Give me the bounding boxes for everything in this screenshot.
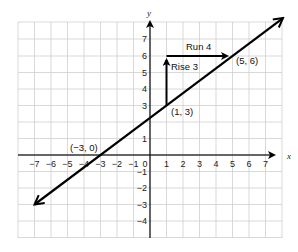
point-label-neg3-0: (−3, 0) — [70, 142, 98, 153]
svg-text:−2: −2 — [137, 183, 147, 193]
x-tick-labels: −7 −6 −5 −4 −3 −2 −1 0 1 2 3 4 5 6 7 — [29, 159, 268, 169]
svg-text:−7: −7 — [29, 159, 39, 169]
y-tick-labels: 7 6 5 4 3 1 −1 −2 −3 −4 — [137, 34, 147, 226]
svg-text:3: 3 — [142, 101, 147, 111]
svg-text:−1: −1 — [137, 167, 147, 177]
svg-text:6: 6 — [246, 159, 251, 169]
run-label: Run 4 — [186, 41, 211, 52]
point-label-1-3: (1, 3) — [171, 106, 193, 117]
point-label-5-6: (5, 6) — [236, 55, 258, 66]
svg-text:2: 2 — [180, 159, 185, 169]
svg-text:4: 4 — [213, 159, 218, 169]
svg-text:−4: −4 — [137, 216, 147, 226]
run-arrow: Run 4 — [167, 41, 228, 56]
svg-text:4: 4 — [142, 84, 147, 94]
svg-text:6: 6 — [142, 51, 147, 61]
x-axis-label: x — [286, 151, 291, 161]
svg-text:−2: −2 — [112, 159, 122, 169]
svg-text:7: 7 — [263, 159, 268, 169]
svg-text:5: 5 — [230, 159, 235, 169]
rise-label: Rise 3 — [171, 61, 198, 72]
svg-text:1: 1 — [164, 159, 169, 169]
linear-function-line — [35, 18, 284, 204]
coordinate-plane: x y −7 −6 −5 −4 −3 −2 −1 0 1 2 3 4 5 6 7… — [0, 0, 298, 252]
svg-text:−6: −6 — [46, 159, 56, 169]
svg-text:1: 1 — [142, 134, 147, 144]
svg-text:−5: −5 — [62, 159, 72, 169]
svg-text:3: 3 — [197, 159, 202, 169]
svg-text:5: 5 — [142, 68, 147, 78]
svg-text:−3: −3 — [95, 159, 105, 169]
y-axis-label: y — [146, 8, 151, 18]
rise-arrow: Rise 3 — [167, 60, 198, 106]
svg-text:−3: −3 — [137, 200, 147, 210]
svg-text:7: 7 — [142, 34, 147, 44]
